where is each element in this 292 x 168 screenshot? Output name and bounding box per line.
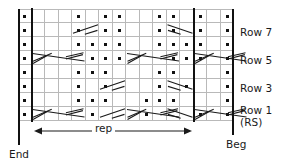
grid-cell (32, 23, 46, 37)
purl-stitch-dot (172, 15, 175, 18)
grid-cell (126, 65, 140, 79)
grid-cell (32, 37, 46, 51)
purl-stitch-dot (104, 43, 107, 46)
grid-cell (180, 65, 194, 79)
grid-cell (113, 65, 127, 79)
purl-stitch-dot (77, 71, 80, 74)
grid-cell (126, 93, 140, 107)
grid-cell (194, 79, 208, 93)
purl-stitch-dot (91, 99, 94, 102)
grid-cell (72, 51, 86, 65)
purl-stitch-dot (23, 113, 26, 116)
grid-cell (140, 23, 154, 37)
purl-stitch-dot (118, 29, 121, 32)
grid-cell (45, 79, 59, 93)
grid-cell (140, 51, 154, 65)
purl-stitch-dot (145, 99, 148, 102)
grid-cell (59, 9, 73, 23)
purl-stitch-dot (199, 15, 202, 18)
purl-stitch-dot (158, 43, 161, 46)
end-label: End (9, 148, 29, 160)
purl-stitch-dot (23, 43, 26, 46)
purl-stitch-dot (104, 15, 107, 18)
purl-stitch-dot (172, 57, 175, 60)
purl-stitch-dot (226, 113, 229, 116)
purl-stitch-dot (77, 15, 80, 18)
purl-stitch-dot (118, 15, 121, 18)
grid-cell (207, 51, 221, 65)
grid-cell (45, 107, 59, 121)
grid-cell (59, 79, 73, 93)
grid-cell (45, 51, 59, 65)
grid-cell (86, 23, 100, 37)
grid-cell (59, 51, 73, 65)
purl-stitch-dot (91, 57, 94, 60)
grid-cell (59, 65, 73, 79)
purl-stitch-dot (104, 29, 107, 32)
grid-cell (194, 65, 208, 79)
grid-cell (45, 37, 59, 51)
purl-stitch-dot (77, 85, 80, 88)
beg-label: Beg (226, 138, 246, 150)
purl-stitch-dot (91, 113, 94, 116)
repeat-boundary-left (31, 8, 33, 122)
grid-cell (194, 93, 208, 107)
purl-stitch-dot (226, 71, 229, 74)
purl-stitch-dot (199, 113, 202, 116)
grid-cell (180, 107, 194, 121)
grid-cell (153, 51, 167, 65)
purl-stitch-dot (158, 85, 161, 88)
grid-cell (207, 79, 221, 93)
grid-cell (32, 65, 46, 79)
grid-cell (99, 107, 113, 121)
purl-stitch-dot (91, 71, 94, 74)
grid-cell (207, 9, 221, 23)
grid-cell (207, 65, 221, 79)
purl-stitch-dot (91, 43, 94, 46)
grid-cell (126, 107, 140, 121)
purl-stitch-dot (23, 99, 26, 102)
grid-cell (59, 93, 73, 107)
grid-cell (140, 79, 154, 93)
purl-stitch-dot (199, 57, 202, 60)
purl-stitch-dot (23, 71, 26, 74)
grid-cell (207, 93, 221, 107)
grid-cell (140, 37, 154, 51)
purl-stitch-dot (77, 43, 80, 46)
grid-cell (180, 9, 194, 23)
grid-cell (113, 93, 127, 107)
grid-cell (86, 79, 100, 93)
purl-stitch-dot (172, 43, 175, 46)
purl-stitch-dot (226, 85, 229, 88)
beg-marker-line (232, 9, 234, 135)
end-marker-line (18, 9, 20, 145)
grid-cell (32, 93, 46, 107)
grid-cell (207, 107, 221, 121)
purl-stitch-dot (185, 43, 188, 46)
grid-cell (126, 51, 140, 65)
grid-cell (45, 93, 59, 107)
grid-cell (140, 9, 154, 23)
grid-cell (32, 107, 46, 121)
grid-cell (86, 9, 100, 23)
purl-stitch-dot (158, 71, 161, 74)
grid-cell (207, 37, 221, 51)
purl-stitch-dot (23, 29, 26, 32)
purl-stitch-dot (145, 113, 148, 116)
purl-stitch-dot (104, 99, 107, 102)
grid-cell (180, 93, 194, 107)
knitting-chart-figure: Row 7 Row 5 Row 3 Row 1 (RS) rep End Beg (0, 0, 292, 168)
purl-stitch-dot (77, 99, 80, 102)
purl-stitch-dot (23, 85, 26, 88)
purl-stitch-dot (226, 15, 229, 18)
grid-cell (45, 65, 59, 79)
purl-stitch-dot (158, 99, 161, 102)
purl-stitch-dot (104, 71, 107, 74)
chart-grid (18, 9, 234, 121)
purl-stitch-dot (23, 15, 26, 18)
purl-stitch-dot (185, 57, 188, 60)
grid-cell (59, 107, 73, 121)
repeat-boundary-right (193, 8, 195, 122)
grid-cell (167, 79, 181, 93)
purl-stitch-dot (158, 29, 161, 32)
